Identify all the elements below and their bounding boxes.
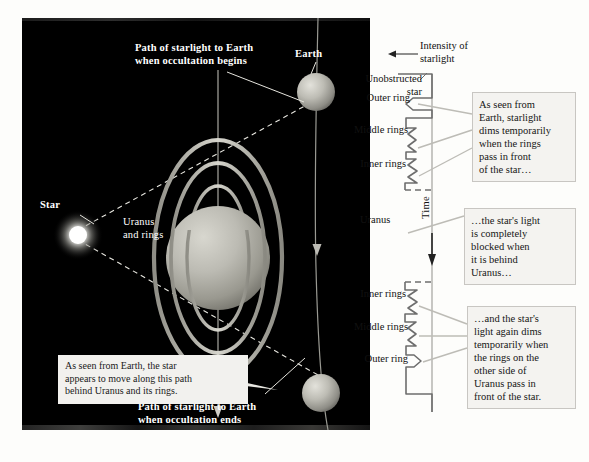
label-earth: Earth <box>295 47 322 60</box>
scene-caption-box: As seen from Earth, the star appears to … <box>58 355 248 404</box>
note-box-uranus-blocked: …the star's light is completely blocked … <box>464 208 576 285</box>
label-path-end: Path of starlight to Earth when occultat… <box>138 400 313 426</box>
leader-note-1a <box>418 104 472 114</box>
leader-note-1b <box>418 130 472 148</box>
event-label-middle-rings-bottom: Middle rings <box>326 321 408 334</box>
time-axis-label: Time <box>420 196 431 219</box>
event-label-outer-ring-top: Outer ring <box>338 92 410 105</box>
leader-note-1c <box>419 148 472 176</box>
label-uranus: Uranus and rings <box>123 215 164 241</box>
event-label-middle-rings-top: Middle rings <box>330 124 408 137</box>
lightcurve-egress <box>405 282 432 412</box>
event-label-outer-ring-bottom: Outer ring <box>334 353 408 366</box>
uranus-planet <box>166 206 270 310</box>
leader-note-3c <box>423 348 467 362</box>
space-scene-panel: Path of starlight to Earth when occultat… <box>22 18 370 430</box>
figure-root: Path of starlight to Earth when occultat… <box>0 0 589 462</box>
leader-earth <box>311 62 316 74</box>
leader-path-begin <box>227 72 304 102</box>
leader-note-3a <box>419 306 467 324</box>
note-box-rings-ingress: As seen from Earth, starlight dims tempo… <box>472 92 576 182</box>
event-label-inner-rings-top: Inner rings <box>330 158 406 171</box>
orbit-direction-arrowhead <box>313 244 322 256</box>
earth-upper <box>297 73 335 111</box>
lightcurve-panel: Intensity of starlight Time Unobstructed… <box>372 18 587 430</box>
note-box-rings-egress: …and the star's light again dims tempora… <box>467 306 576 409</box>
star-core <box>69 226 87 244</box>
intensity-axis-label: Intensity of starlight <box>420 40 468 65</box>
intensity-arrow-head <box>388 51 396 58</box>
time-arrow-head <box>428 254 436 266</box>
label-star: Star <box>40 198 60 211</box>
label-path-begin: Path of starlight to Earth when occultat… <box>135 41 305 67</box>
event-label-inner-rings-bottom: Inner rings <box>330 288 406 301</box>
event-label-uranus: Uranus <box>360 214 420 227</box>
